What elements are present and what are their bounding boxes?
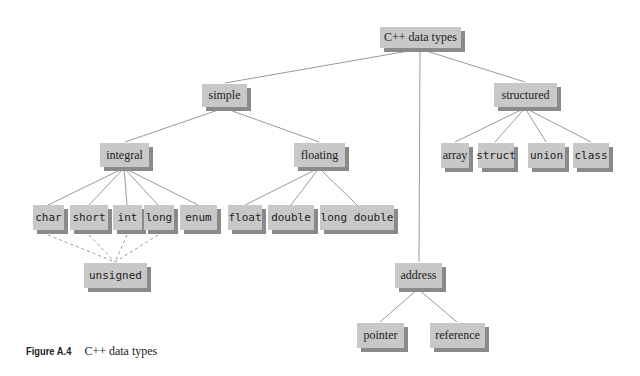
connector-lines	[0, 0, 640, 376]
node-floating: floating	[294, 143, 345, 167]
node-char: char	[33, 205, 64, 230]
figure-caption-text: C++ data types	[84, 344, 157, 358]
node-pointer: pointer	[357, 323, 404, 348]
figure-label: Figure A.4	[26, 345, 71, 357]
node-structured: structured	[494, 83, 557, 107]
node-long: long	[144, 205, 174, 230]
node-double: double	[268, 205, 314, 230]
node-float: float	[228, 205, 262, 230]
node-reference: reference	[430, 323, 485, 348]
node-array: array	[441, 143, 469, 168]
node-root: C++ data types	[380, 27, 461, 48]
node-address: address	[395, 263, 442, 288]
node-union: union	[528, 143, 565, 168]
node-class: class	[573, 143, 609, 168]
node-long-double: long double	[320, 205, 394, 230]
node-integral: integral	[100, 143, 149, 167]
diagram-canvas: C++ data types simple structured address…	[0, 0, 640, 376]
node-simple: simple	[202, 84, 247, 107]
node-int: int	[113, 205, 142, 230]
node-enum: enum	[180, 205, 217, 230]
figure-caption: Figure A.4 C++ data types	[26, 344, 157, 359]
node-struct: struct	[478, 143, 514, 168]
node-unsigned: unsigned	[84, 263, 147, 288]
node-short: short	[70, 205, 108, 230]
